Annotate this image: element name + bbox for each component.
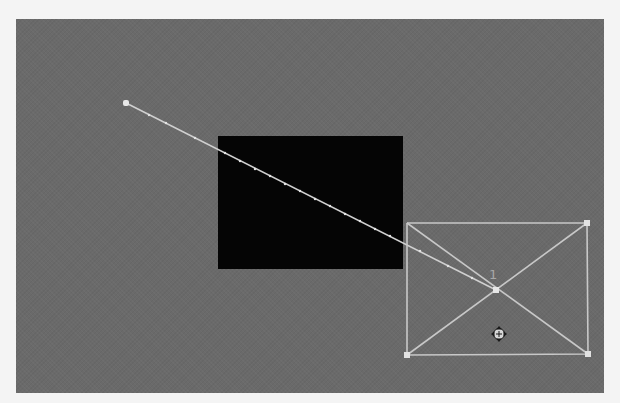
motion-path-start-keyframe[interactable] — [123, 100, 129, 106]
anchor-point-handle[interactable] — [493, 287, 499, 293]
handle-bottom-right[interactable] — [585, 351, 591, 357]
transform-overlay — [0, 0, 620, 403]
anchor-index-label: 1 — [489, 268, 497, 281]
motion-path[interactable] — [123, 100, 496, 290]
handle-bottom-left[interactable] — [404, 352, 410, 358]
move-cursor-icon — [491, 326, 507, 342]
editor-stage: 1 — [0, 0, 620, 403]
handle-top-right[interactable] — [584, 220, 590, 226]
